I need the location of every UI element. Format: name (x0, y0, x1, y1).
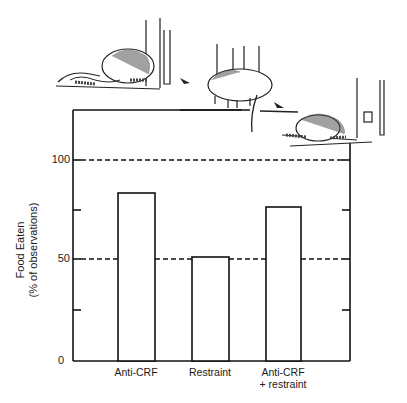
arrow-icon (274, 102, 284, 108)
y-axis-label-line2: (% of observations) (27, 190, 40, 310)
y-axis-label: Food Eaten (% of observations) (14, 190, 40, 310)
y-axis-label-line1: Food Eaten (14, 190, 27, 310)
figure (0, 0, 407, 403)
bars (118, 193, 301, 361)
rat-eating-illustration-1 (56, 18, 170, 89)
bar-anti-crf-restraint (266, 207, 301, 361)
y-tick-label-50: 50 (40, 252, 70, 264)
restrained-rat-illustration (180, 44, 298, 132)
y-tick-label-100: 100 (40, 153, 70, 165)
arrow-icon (180, 78, 190, 84)
category-label-anti-crf-restraint: Anti-CRF + restraint (238, 366, 328, 390)
y-tick-label-0: 0 (34, 354, 64, 366)
bar-restraint (192, 257, 229, 361)
bar-anti-crf (118, 193, 155, 361)
